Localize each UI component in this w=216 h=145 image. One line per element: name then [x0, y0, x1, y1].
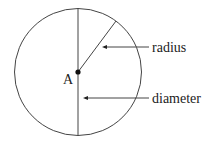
diameter-label: diameter: [152, 91, 201, 106]
center-point: [75, 69, 80, 74]
circle-diagram: A radius diameter: [0, 0, 216, 145]
radius-arrowhead-icon: [102, 45, 107, 49]
radius-label: radius: [152, 40, 186, 55]
diameter-arrowhead-icon: [83, 96, 88, 100]
center-label: A: [63, 72, 74, 87]
